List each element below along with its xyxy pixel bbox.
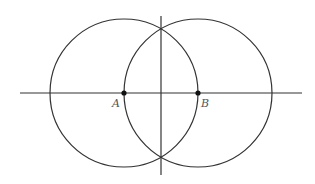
- label-A: A: [111, 97, 120, 110]
- geometry-diagram: A B: [0, 0, 315, 184]
- diagram-canvas: A B: [0, 0, 315, 184]
- point-B: [195, 90, 200, 95]
- label-B: B: [200, 97, 209, 110]
- point-A: [121, 90, 126, 95]
